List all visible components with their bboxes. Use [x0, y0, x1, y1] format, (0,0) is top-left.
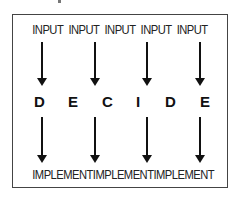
- input-row: INPUT INPUT INPUT INPUT INPUT: [27, 22, 213, 37]
- implement-label: IMPLEMENT: [93, 167, 154, 182]
- partial-caption-mark: [58, 0, 61, 3]
- down-arrow-icon: [199, 117, 201, 157]
- down-arrow-icon: [94, 117, 96, 157]
- decide-letter: C: [102, 93, 113, 110]
- input-label: INPUT: [32, 22, 63, 37]
- decide-letter: E: [68, 93, 78, 110]
- down-arrow-icon: [199, 42, 201, 80]
- decide-letter: D: [34, 93, 45, 110]
- down-arrow-icon: [94, 42, 96, 80]
- input-label: INPUT: [177, 22, 208, 37]
- decide-letter: D: [165, 93, 176, 110]
- implement-label: IMPLEMENT: [153, 167, 214, 182]
- decide-letter: I: [136, 93, 140, 110]
- implement-row: IMPLEMENT IMPLEMENT IMPLEMENT: [27, 167, 213, 182]
- down-arrow-icon: [41, 117, 43, 157]
- input-label: INPUT: [68, 22, 99, 37]
- down-arrow-icon: [146, 42, 148, 80]
- down-arrow-icon: [41, 42, 43, 80]
- input-label: INPUT: [104, 22, 135, 37]
- input-label: INPUT: [141, 22, 172, 37]
- decide-letter: E: [200, 93, 210, 110]
- decide-word: D E C I D E: [0, 93, 238, 109]
- implement-label: IMPLEMENT: [32, 167, 93, 182]
- down-arrow-icon: [146, 117, 148, 157]
